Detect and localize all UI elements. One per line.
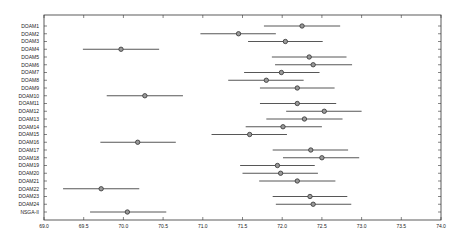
x-tick-label: 72.5 [317, 223, 327, 229]
x-tick-label: 74.0 [436, 223, 446, 229]
y-category-label: DOAM24 [18, 201, 39, 207]
mean-marker [295, 86, 299, 90]
y-category-label: DOAM22 [18, 186, 39, 192]
mean-marker [264, 78, 268, 82]
y-category-label: DOAM14 [18, 124, 39, 130]
y-category-label: DOAM6 [21, 62, 39, 68]
y-category-label: DOAM11 [19, 100, 39, 106]
mean-marker [311, 202, 315, 206]
mean-marker [275, 163, 279, 167]
data-series [63, 24, 362, 214]
y-category-label: NSGA-II [20, 209, 39, 215]
y-category-label: DOAM20 [18, 170, 39, 176]
mean-marker [119, 47, 123, 51]
mean-marker [135, 140, 139, 144]
mean-marker [320, 156, 324, 160]
mean-marker [125, 210, 129, 214]
x-tick-label: 73.0 [357, 223, 367, 229]
mean-marker [322, 109, 326, 113]
y-category-label: DOAM9 [21, 85, 39, 91]
x-tick-label: 70.0 [119, 223, 129, 229]
y-category-label: DOAM15 [18, 131, 39, 137]
mean-marker [308, 194, 312, 198]
y-category-label: DOAM17 [18, 147, 39, 153]
y-category-label: DOAM23 [18, 193, 39, 199]
y-category-label: DOAM7 [21, 69, 39, 75]
y-category-label: DOAM13 [18, 116, 39, 122]
y-category-label: DOAM8 [21, 77, 39, 83]
x-tick-label: 69.0 [39, 223, 49, 229]
mean-marker [278, 171, 282, 175]
y-category-label: DOAM1 [21, 23, 39, 29]
mean-marker [236, 32, 240, 36]
x-tick-label: 71.5 [238, 223, 248, 229]
mean-marker [295, 101, 299, 105]
y-category-label: DOAM12 [18, 108, 39, 114]
y-category-label: DOAM2 [21, 31, 39, 37]
y-category-label: DOAM19 [18, 162, 39, 168]
x-axis: 69.069.570.070.571.071.572.072.573.073.5… [39, 15, 446, 229]
x-tick-label: 72.0 [277, 223, 287, 229]
mean-marker [247, 132, 251, 136]
mean-marker [279, 70, 283, 74]
mean-marker [300, 24, 304, 28]
mean-marker [281, 125, 285, 129]
y-category-label: DOAM10 [18, 93, 39, 99]
mean-marker [99, 187, 103, 191]
mean-marker [309, 148, 313, 152]
y-category-label: DOAM3 [21, 38, 39, 44]
mean-marker [302, 117, 306, 121]
interval-chart: 69.069.570.070.571.071.572.072.573.073.5… [0, 0, 459, 240]
x-tick-label: 69.5 [79, 223, 89, 229]
mean-marker [295, 179, 299, 183]
x-tick-label: 73.5 [396, 223, 406, 229]
y-category-label: DOAM21 [18, 178, 39, 184]
mean-marker [143, 94, 147, 98]
y-category-label: DOAM18 [18, 155, 39, 161]
x-tick-label: 71.0 [198, 223, 208, 229]
y-category-label: DOAM5 [21, 54, 39, 60]
y-category-label: DOAM4 [21, 46, 39, 52]
x-tick-label: 70.5 [158, 223, 168, 229]
mean-marker [307, 55, 311, 59]
y-axis: DOAM1DOAM2DOAM3DOAM4DOAM5DOAM6DOAM7DOAM8… [18, 23, 441, 215]
y-category-label: DOAM16 [18, 139, 39, 145]
mean-marker [283, 39, 287, 43]
mean-marker [311, 63, 315, 67]
